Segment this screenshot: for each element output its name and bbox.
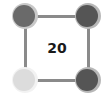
moon-crescent-icon bbox=[76, 5, 98, 27]
moon-crescent-icon bbox=[13, 69, 35, 91]
moon-crescent-icon bbox=[76, 69, 98, 91]
node-bottom-left[interactable] bbox=[12, 67, 38, 93]
node-top-right[interactable] bbox=[75, 3, 101, 29]
center-value: 20 bbox=[38, 38, 76, 58]
node-top-left[interactable] bbox=[12, 3, 38, 29]
puzzle-board: 20 bbox=[0, 0, 105, 106]
node-bottom-right[interactable] bbox=[75, 67, 101, 93]
moon-crescent-icon bbox=[13, 5, 35, 27]
